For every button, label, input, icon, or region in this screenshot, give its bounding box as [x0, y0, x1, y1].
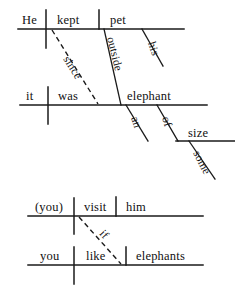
- word-verb-kept: kept: [57, 13, 80, 27]
- diagram-1: He kept pet his outside since it was ele…: [18, 10, 235, 179]
- word-object-pet: pet: [110, 13, 126, 27]
- word-article-an: an: [129, 115, 144, 129]
- word-verb-visit: visit: [84, 200, 107, 214]
- sentence-diagram-page: He kept pet his outside since it was ele…: [0, 0, 235, 297]
- word-sub-subject-it: it: [26, 89, 34, 103]
- word-sub-object-elephants: elephants: [136, 249, 185, 263]
- word-object-him: him: [126, 200, 146, 214]
- word-sub-complement-elephant: elephant: [127, 89, 171, 103]
- word-modifier-his: his: [146, 40, 162, 57]
- word-preposition-of: of: [160, 115, 174, 128]
- word-sub-subject-you: you: [40, 249, 60, 263]
- word-conjunction-if: if: [98, 227, 112, 241]
- word-prep-object-size: size: [188, 126, 208, 140]
- diagram-canvas: He kept pet his outside since it was ele…: [0, 0, 235, 297]
- word-subject-you-implied: (you): [35, 200, 63, 214]
- word-adverbial-outside: outside: [105, 36, 125, 72]
- word-sub-verb-was: was: [58, 89, 78, 103]
- word-modifier-some: some: [191, 148, 213, 176]
- word-subject-he: He: [22, 13, 37, 27]
- word-sub-verb-like: like: [86, 249, 106, 263]
- diagram-2: (you) visit him if you like elephants: [28, 197, 203, 284]
